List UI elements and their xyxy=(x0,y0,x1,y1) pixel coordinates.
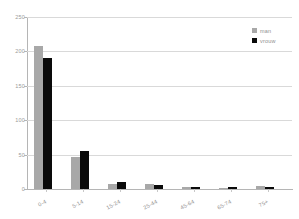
x-tick-mark xyxy=(194,189,195,192)
gridline-100 xyxy=(27,120,292,121)
bar-man-75plus xyxy=(256,186,265,189)
gridline-50 xyxy=(27,155,292,156)
gridline-200 xyxy=(27,51,292,52)
bar-chart: 250 200 150 100 50 0 xyxy=(0,0,299,219)
x-tick-mark xyxy=(268,189,269,192)
y-tick-label-250: 250 xyxy=(3,14,25,20)
bar-vrouw-65-74 xyxy=(228,187,237,189)
y-tick-label-0: 0 xyxy=(3,186,25,192)
x-tick-label-25-44: 25-44 xyxy=(131,198,159,216)
y-axis: 250 200 150 100 50 0 xyxy=(0,0,25,219)
bar-vrouw-5-14 xyxy=(80,151,89,189)
x-tick-mark xyxy=(46,189,47,192)
legend-label-vrouw: vrouw xyxy=(260,38,276,44)
legend: man vrouw xyxy=(252,26,296,46)
x-tick-label-45-64: 45-64 xyxy=(168,198,196,216)
x-tick-mark xyxy=(120,189,121,192)
y-tick-label-50: 50 xyxy=(3,152,25,158)
legend-swatch-icon-man xyxy=(252,28,257,33)
legend-label-man: man xyxy=(260,28,271,34)
y-tick-label-100: 100 xyxy=(3,117,25,123)
x-tick-label-65-74: 65-74 xyxy=(205,198,233,216)
x-tick-mark xyxy=(157,189,158,192)
gridline-150 xyxy=(27,86,292,87)
bar-man-15-24 xyxy=(108,184,117,189)
bar-vrouw-25-44 xyxy=(154,185,163,189)
y-tick-label-200: 200 xyxy=(3,48,25,54)
legend-item-man: man xyxy=(252,26,296,35)
x-tick-label-15-24: 15-24 xyxy=(94,198,122,216)
x-tick-label-5-14: 5-14 xyxy=(57,198,85,216)
x-axis-line xyxy=(27,189,293,190)
bar-man-0-4 xyxy=(34,46,43,189)
legend-item-vrouw: vrouw xyxy=(252,36,296,45)
bar-vrouw-75plus xyxy=(265,187,274,189)
x-tick-mark xyxy=(83,189,84,192)
bar-vrouw-15-24 xyxy=(117,182,126,189)
legend-swatch-icon-vrouw xyxy=(252,38,257,43)
bar-man-25-44 xyxy=(145,184,154,189)
bar-vrouw-45-64 xyxy=(191,187,200,189)
x-tick-label-75plus: 75+ xyxy=(242,198,270,216)
bar-vrouw-0-4 xyxy=(43,58,52,189)
bar-man-5-14 xyxy=(71,157,80,189)
bar-man-45-64 xyxy=(182,187,191,189)
y-tick-label-150: 150 xyxy=(3,83,25,89)
gridline-250 xyxy=(27,17,292,18)
x-tick-mark xyxy=(231,189,232,192)
bar-man-65-74 xyxy=(219,188,228,189)
